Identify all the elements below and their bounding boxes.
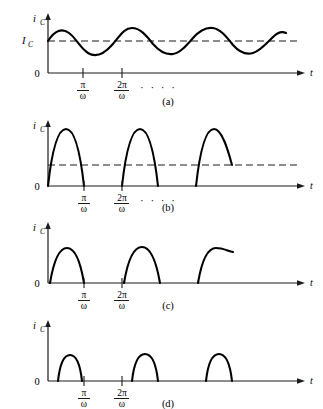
panel-caption-c: (c) [162, 300, 174, 311]
tick-label-1-denominator: ω [81, 301, 87, 311]
tick-label-2-numerator: 2π [117, 193, 127, 203]
waveform-pulse-c-1 [50, 248, 84, 283]
y-axis-arrow [45, 222, 51, 229]
waveform-pulse-d-3 [206, 354, 232, 381]
tick-label-1-denominator: ω [80, 91, 86, 101]
waveform-pulse-b-1 [48, 129, 84, 186]
ellipsis-a: · · · · [140, 81, 177, 93]
y-axis-label: i [33, 13, 36, 24]
tick-label-2-denominator: ω [119, 399, 125, 409]
waveform-pulse-b-2 [122, 129, 158, 186]
y-axis-label-subscript: C [40, 18, 46, 27]
y-axis-label: i [33, 320, 36, 331]
panel-c: π ω 2π ω i C 0 t (c) [0, 213, 323, 311]
waveform-pulse-d-1 [58, 355, 82, 381]
tick-label-1-numerator: π [82, 388, 87, 398]
x-axis-label: t [310, 180, 313, 191]
origin-label: 0 [34, 181, 39, 192]
origin-label: 0 [34, 376, 39, 387]
y-axis-label: i [33, 120, 36, 131]
y-axis-arrow [45, 320, 51, 327]
origin-label: 0 [34, 278, 39, 289]
tick-label-1-numerator: π [81, 80, 86, 90]
x-axis-arrow [297, 378, 305, 384]
level-label-subscript: C [28, 40, 34, 49]
tick-label-2-numerator: 2π [117, 290, 127, 300]
panel-caption-a: (a) [162, 96, 174, 108]
tick-label-1-denominator: ω [81, 204, 87, 213]
x-axis-label: t [310, 375, 313, 386]
x-axis-label: t [310, 277, 313, 288]
tick-label-1-denominator: ω [81, 399, 87, 409]
panel-caption-b: (b) [162, 202, 175, 213]
waveform-pulse-d-2 [132, 354, 158, 381]
x-axis-arrow [297, 183, 305, 189]
waveform-pulse-c-3 [198, 248, 233, 283]
x-axis-arrow [297, 70, 305, 76]
panel-b: π ω 2π ω · · · · i C 0 t (b) [0, 108, 323, 213]
panel-caption-d: (d) [162, 398, 175, 409]
origin-label: 0 [34, 68, 39, 79]
level-label: I [21, 35, 26, 46]
waveform-pulse-b-3 [196, 129, 232, 186]
y-axis-label: i [33, 222, 36, 233]
panel-a: π ω 2π ω · · · · i C I C 0 t (a) [0, 0, 323, 108]
waveform-pulse-c-2 [124, 247, 160, 283]
y-axis-arrow [45, 120, 51, 127]
y-axis-label-subscript: C [40, 125, 46, 134]
figure-waveforms: π ω 2π ω · · · · i C I C 0 t (a) [0, 0, 323, 409]
tick-label-1-numerator: π [82, 193, 87, 203]
tick-label-2-numerator: 2π [117, 388, 127, 398]
tick-label-2-numerator: 2π [117, 80, 127, 90]
tick-label-2-denominator: ω [119, 91, 125, 101]
tick-label-1-numerator: π [82, 290, 87, 300]
tick-label-2-denominator: ω [119, 301, 125, 311]
tick-label-2-denominator: ω [119, 204, 125, 213]
y-axis-label-subscript: C [40, 325, 46, 334]
x-axis-arrow [297, 280, 305, 286]
x-axis-label: t [310, 67, 313, 78]
panel-d: π ω 2π ω i C 0 t (d) [0, 311, 323, 409]
y-axis-label-subscript: C [40, 227, 46, 236]
y-axis-arrow [45, 13, 51, 20]
